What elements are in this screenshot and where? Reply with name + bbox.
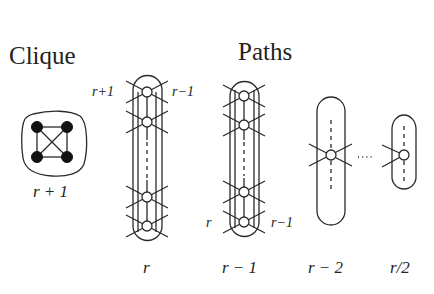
path-r-half-label: r/2 <box>390 259 410 276</box>
path-r-half-node <box>399 150 409 160</box>
path-r-node <box>142 221 152 231</box>
path-r-minus-2-node <box>326 150 336 160</box>
path-r-half-graph <box>382 115 416 189</box>
path-r-node <box>142 117 152 127</box>
path-r-minus-2-label: r − 2 <box>308 259 343 276</box>
path-r-minus-1-label: r − 1 <box>222 259 257 276</box>
diagram-canvas <box>0 0 434 294</box>
path-r-minus-1-graph <box>223 82 265 237</box>
path-r-minus-1-node <box>239 120 249 130</box>
path-r-minus-1-node <box>239 187 249 197</box>
clique-node <box>62 152 73 163</box>
path-r-label: r <box>143 259 150 276</box>
path-r-minus-1-node <box>239 217 249 227</box>
clique-graph <box>22 111 87 176</box>
path-r-top-left-label: r+1 <box>92 85 114 99</box>
path-r-top-right-label: r−1 <box>172 85 194 99</box>
path-r-minus-2-graph <box>309 97 352 225</box>
clique-size-label: r + 1 <box>33 183 68 200</box>
clique-node <box>62 122 73 133</box>
clique-node <box>32 152 43 163</box>
path-r-minus-1-bottom-right-label: r−1 <box>271 216 293 230</box>
path-r-node <box>142 192 152 202</box>
path-r-minus-1-node <box>239 91 249 101</box>
clique-node <box>32 122 43 133</box>
path-r-graph <box>126 76 168 241</box>
path-r-node <box>142 87 152 97</box>
path-r-minus-1-bottom-left-label: r <box>206 216 211 230</box>
